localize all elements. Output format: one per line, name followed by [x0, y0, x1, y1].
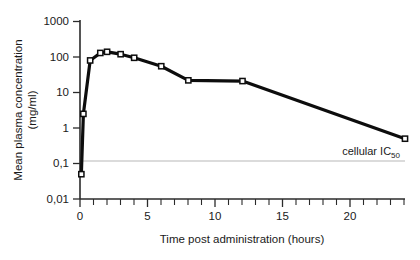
data-point-marker — [118, 52, 123, 57]
y-ticklabel-100: 100 — [50, 51, 69, 63]
cellular-ic50-label-text: cellular IC — [342, 145, 391, 157]
y-ticklabel-10: 10 — [56, 86, 69, 98]
y-ticklabel-0.01: 0,01 — [47, 193, 69, 205]
data-point-marker — [79, 172, 84, 177]
x-ticklabel-15: 15 — [276, 210, 289, 222]
data-point-marker — [240, 78, 245, 83]
x-axis-title: Time post administration (hours) — [160, 233, 325, 245]
y-ticklabel-0.1: 0,1 — [53, 157, 69, 169]
cellular-ic50-label-subscript: 50 — [391, 151, 400, 160]
plasma-concentration-chart: 1000 100 10 1 0,1 0,01 — [0, 0, 420, 260]
y-ticklabel-1000: 1000 — [43, 15, 69, 27]
x-axis-ticklabels: 0 5 10 15 20 — [77, 210, 357, 222]
data-point-markers — [79, 49, 408, 177]
x-axis-minor-ticks — [94, 199, 405, 205]
x-ticklabel-20: 20 — [344, 210, 357, 222]
data-point-marker — [159, 64, 164, 69]
data-point-marker — [104, 49, 109, 54]
x-ticklabel-10: 10 — [209, 210, 222, 222]
x-ticklabel-5: 5 — [144, 210, 150, 222]
data-point-marker — [81, 111, 86, 116]
y-axis-title-line2: (mg/ml) — [26, 90, 38, 129]
y-axis-title-line1: Mean plasma concentration — [12, 39, 24, 180]
chart-canvas: 1000 100 10 1 0,1 0,01 — [0, 0, 420, 260]
cellular-ic50-label: cellular IC50 — [342, 145, 400, 160]
data-point-marker — [132, 55, 137, 60]
data-point-marker — [186, 78, 191, 83]
y-axis-ticklabels: 1000 100 10 1 0,1 0,01 — [43, 15, 69, 205]
x-ticklabel-0: 0 — [77, 210, 83, 222]
y-ticklabel-1: 1 — [63, 122, 69, 134]
data-point-marker — [98, 50, 103, 55]
data-point-marker — [88, 58, 93, 63]
data-point-marker — [402, 136, 407, 141]
